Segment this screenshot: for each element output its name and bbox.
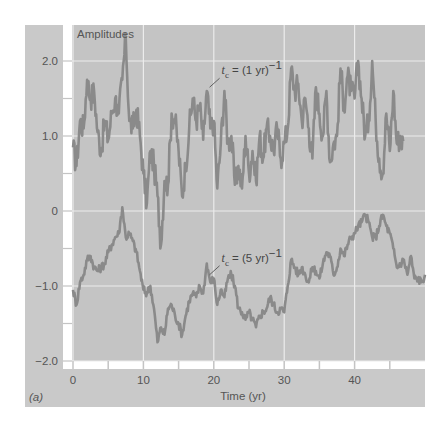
x-axis-title: Time (yr): [220, 390, 266, 402]
annotation-text: = (5 yr): [229, 252, 269, 264]
y-tick-label: −1.0: [35, 280, 58, 292]
y-axis-strip: [63, 25, 72, 362]
x-tick-label: 40: [348, 374, 361, 386]
figure: −2.0−1.001.02.0010203040 tc = (1 yr)−1tc…: [0, 0, 447, 427]
x-tick-label: 30: [278, 374, 291, 386]
y-tick-label: −2.0: [35, 355, 58, 367]
y-tick-label: 2.0: [42, 55, 58, 67]
x-tick-label: 20: [207, 374, 220, 386]
y-tick-label: 1.0: [42, 130, 58, 142]
annotation-superscript: −1: [269, 59, 282, 71]
annotation-superscript: −1: [269, 247, 282, 259]
y-axis-title: Amplitudes: [77, 28, 134, 40]
y-tick-label: 0: [52, 205, 58, 217]
x-tick-label: 0: [70, 374, 76, 386]
annotation-text: = (1 yr): [229, 64, 269, 76]
panel-label: (a): [29, 391, 43, 403]
x-tick-label: 10: [137, 374, 150, 386]
x-axis-strip: [63, 361, 425, 369]
